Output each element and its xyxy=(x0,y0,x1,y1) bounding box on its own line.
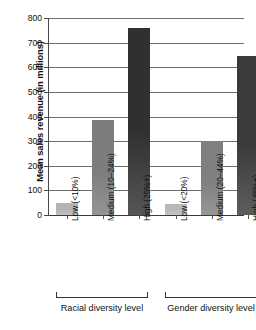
y-tick-label: 0 xyxy=(37,210,42,220)
group-bracket xyxy=(56,292,148,298)
category-label: Medium (20–44%) xyxy=(215,153,225,221)
y-tick-600 xyxy=(44,67,49,68)
category-label: Low (<20%) xyxy=(179,176,189,221)
x-tick xyxy=(103,215,104,219)
y-tick-400 xyxy=(44,117,49,118)
gridline-800 xyxy=(49,18,244,19)
category-label: Low (<10%) xyxy=(70,176,80,221)
y-tick-label: 700 xyxy=(28,38,42,48)
y-tick-label: 300 xyxy=(28,136,42,146)
y-tick-label: 600 xyxy=(28,62,42,72)
y-tick-label: 500 xyxy=(28,87,42,97)
y-tick-500 xyxy=(44,92,49,93)
x-tick xyxy=(248,215,249,219)
y-tick-label: 800 xyxy=(28,13,42,23)
y-tick-100 xyxy=(44,190,49,191)
y-tick-200 xyxy=(44,166,49,167)
y-tick-700 xyxy=(44,43,49,44)
y-tick-label: 200 xyxy=(28,161,42,171)
group-label: Gender diversity level xyxy=(167,303,254,313)
category-label: High (45%+) xyxy=(251,175,256,221)
x-tick xyxy=(212,215,213,219)
y-tick-800 xyxy=(44,18,49,19)
x-tick xyxy=(67,215,68,219)
group-label: Racial diversity level xyxy=(61,303,143,313)
y-tick-label: 100 xyxy=(28,185,42,195)
group-bracket xyxy=(165,292,256,298)
category-label: Medium (10–24%) xyxy=(106,153,116,221)
y-tick-label: 400 xyxy=(28,112,42,122)
y-tick-0 xyxy=(44,215,49,216)
bar-chart-figure: Mean sales revenue (in millions) 0100200… xyxy=(0,0,256,330)
category-label: High (25%+) xyxy=(142,175,152,221)
x-tick xyxy=(176,215,177,219)
y-tick-300 xyxy=(44,141,49,142)
x-tick xyxy=(139,215,140,219)
